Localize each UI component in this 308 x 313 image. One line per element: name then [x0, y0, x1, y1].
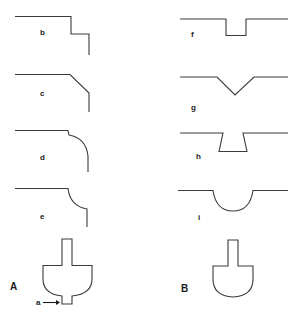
label-h: h: [196, 152, 201, 161]
profile-b: b: [15, 17, 89, 56]
label-g: g: [191, 103, 196, 112]
profile-f-outline: [180, 19, 288, 36]
profile-c: c: [15, 75, 89, 113]
label-A: A: [10, 281, 17, 292]
profile-h: h: [180, 133, 288, 161]
label-B: B: [181, 283, 188, 294]
profile-e-outline: [15, 189, 87, 228]
label-b: b: [40, 28, 45, 37]
label-e: e: [40, 212, 45, 221]
profile-b-outline: [15, 17, 89, 56]
shape-a-outline: [43, 239, 92, 304]
figure-canvas: b c d e A a f g h i: [0, 0, 308, 313]
shape-b: B: [181, 240, 253, 297]
right-arrow-icon: [43, 300, 60, 305]
label-a: a: [36, 298, 41, 307]
profile-i: i: [178, 191, 288, 223]
profile-d-outline: [15, 131, 88, 173]
profile-f: f: [180, 19, 288, 39]
profile-d: d: [15, 131, 88, 173]
profile-c-outline: [15, 75, 89, 113]
profile-e: e: [15, 189, 87, 228]
profile-i-outline: [178, 191, 288, 212]
profile-h-outline: [180, 133, 288, 152]
label-d: d: [40, 153, 45, 162]
shape-a: A a: [10, 239, 92, 307]
label-c: c: [40, 89, 45, 98]
shape-b-outline: [213, 240, 253, 297]
label-f: f: [191, 30, 194, 39]
label-i: i: [198, 213, 200, 222]
profile-g: g: [180, 77, 288, 112]
profile-g-outline: [180, 77, 288, 95]
